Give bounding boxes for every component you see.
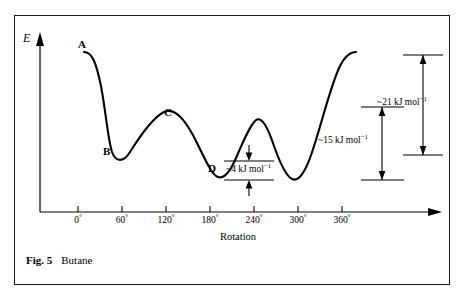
curve-point-label-c: C [164,107,172,118]
x-axis-title: Rotation [220,232,256,243]
figure-root: E A B C D 0° 60° 120° 180° 240° 300° 360… [0,0,474,303]
energy-annotation-4kj: ~4 kJ mol−1 [226,165,271,175]
x-axis-ticks [78,206,342,212]
caption-text: Butane [61,254,92,266]
caption-number: Fig. 5 [26,254,52,266]
x-axis [40,208,442,216]
x-tick-label-180: 180° [201,216,218,226]
x-tick-label-0: 0° [74,216,82,226]
y-axis-label: E [23,32,30,44]
x-tick-label-300: 300° [289,216,306,226]
energy-annotation-15kj: ~15 kJ mol−1 [318,136,368,146]
energy-curve [84,52,356,180]
x-tick-label-360: 360° [333,216,350,226]
x-tick-label-240: 240° [245,216,262,226]
figure-caption: Fig. 5Butane [26,255,92,266]
curve-point-label-a: A [78,39,86,50]
y-axis [36,32,44,212]
x-tick-label-60: 60° [116,216,128,226]
curve-point-label-b: B [103,146,110,157]
x-tick-label-120: 120° [157,216,174,226]
energy-annotation-21kj: ~21 kJ mol−1 [377,98,427,108]
curve-point-label-d: D [208,163,216,174]
